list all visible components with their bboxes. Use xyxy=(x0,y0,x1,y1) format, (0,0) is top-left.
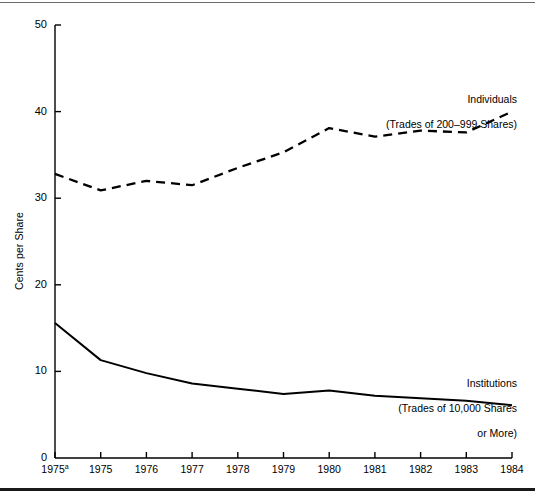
chart-figure: Cents per Share 01020304050 1975a1975197… xyxy=(0,0,535,500)
y-tick-label: 20 xyxy=(15,279,47,290)
series-label-institutions-line1: Institutions xyxy=(287,377,517,390)
series-label-individuals-line1: Individuals xyxy=(287,93,517,106)
series-label-institutions-line3: or More) xyxy=(287,427,517,440)
y-tick-label: 40 xyxy=(15,106,47,117)
bottom-rule xyxy=(0,488,535,491)
series-label-institutions-line2: (Trades of 10,000 Shares xyxy=(287,402,517,415)
chart-series xyxy=(55,112,512,406)
x-tick-footnote-marker: a xyxy=(65,463,69,470)
series-label-institutions: Institutions (Trades of 10,000 Shares or… xyxy=(287,364,517,452)
y-tick-label: 0 xyxy=(15,452,47,463)
series-label-individuals-line2: (Trades of 200–999 Shares) xyxy=(287,118,517,131)
x-tick-label: 1984 xyxy=(482,464,535,475)
y-tick-label: 30 xyxy=(15,192,47,203)
y-tick-label: 50 xyxy=(15,19,47,30)
series-label-individuals: Individuals (Trades of 200–999 Shares) xyxy=(287,80,517,143)
y-tick-label: 10 xyxy=(15,365,47,376)
